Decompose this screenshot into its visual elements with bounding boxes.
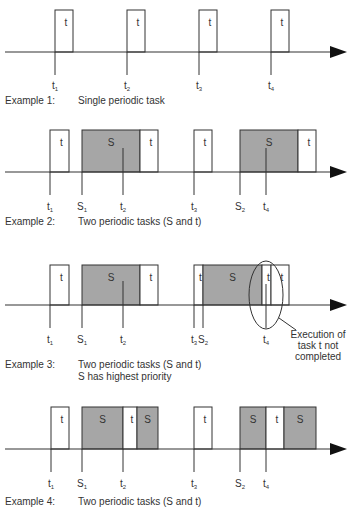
time-marker: t4 [268,52,275,92]
task-block-t: t [298,130,316,172]
marker-label: t3 [196,80,203,92]
task-block-t: t [55,10,73,52]
task-label: S [108,272,115,283]
time-marker: t1 [47,172,54,213]
task-label: t [150,137,153,148]
task-block-t: t [271,10,289,52]
task-label: t [65,17,68,28]
marker-label: t1 [47,201,54,213]
marker-label: t1 [52,80,59,92]
task-block-t: t [194,130,212,172]
task-block-s: S [82,265,140,305]
time-marker: S1 [77,305,88,346]
arrow-head-icon [330,443,347,455]
marker-label: S2 [198,334,209,346]
task-block-t: t [123,407,137,449]
task-block-t: t [199,10,217,52]
task-label: t [60,272,63,283]
annotation-text: task t not [298,340,339,351]
task-block-s: S [203,265,262,305]
task-label: S [99,414,106,425]
time-marker: t1 [48,449,55,490]
caption-label: Example 4: [5,496,55,507]
task-block-s: S [240,407,266,449]
time-marker: S1 [77,449,88,490]
time-marker: S2 [198,305,209,346]
marker-label: t4 [268,80,275,92]
task-block-t: t [194,265,203,305]
task-label: t [267,272,270,283]
time-marker: t2 [120,449,127,490]
marker-label: t2 [120,334,127,346]
task-label: S [297,414,304,425]
marker-label: t1 [47,334,54,346]
example-caption: Example 4:Two periodic tasks (S and t) [5,496,201,507]
task-block-t: t [50,265,69,305]
task-label: t [209,17,212,28]
marker-label: t2 [120,478,127,490]
example-1: ttttt1t2t3t4Example 1:Single periodic ta… [5,10,347,106]
task-label: t [281,17,284,28]
marker-label: S1 [77,201,88,213]
task-block-t: t [194,407,212,449]
marker-label: t4 [263,478,270,490]
task-label: t [61,414,64,425]
time-marker: t1 [47,305,54,346]
task-label: t [131,414,134,425]
task-label: S [144,414,151,425]
task-block-s: S [82,130,140,172]
example-caption: Example 2:Two periodic tasks (S and t) [5,216,201,227]
task-block-s: S [240,130,298,172]
time-marker: t2 [124,52,131,92]
task-label: t [60,137,63,148]
time-marker: t3 [196,52,203,92]
marker-label: S2 [235,201,246,213]
task-block-t: t [50,130,69,172]
annotation-text: Execution of [290,329,345,340]
caption-label: Example 1: [5,95,55,106]
arrow-head-icon [330,299,347,311]
time-marker: S2 [235,172,246,213]
time-marker: S1 [77,172,88,213]
task-label: t [199,272,202,283]
marker-label: t4 [263,201,270,213]
task-label: S [250,414,257,425]
example-4: tStStStSt1S1t2t3S2t4Example 4:Two period… [5,407,347,507]
task-block-t: t [140,265,158,305]
arrow-head-icon [330,46,347,58]
task-label: t [204,137,207,148]
task-block-t: t [51,407,69,449]
arrow-head-icon [330,166,347,178]
caption-text: Two periodic tasks (S and t) [78,496,201,507]
marker-label: t3 [191,334,198,346]
marker-label: t1 [48,478,55,490]
task-block-t: t [266,407,284,449]
example-caption: Example 1:Single periodic task [5,95,166,106]
task-label: t [204,414,207,425]
task-block-s: S [82,407,123,449]
time-marker: t3 [191,305,198,346]
task-label: S [108,137,115,148]
task-label: t [137,17,140,28]
task-label: S [229,272,236,283]
caption-text: Two periodic tasks (S and t) [78,359,201,370]
marker-label: S1 [77,478,88,490]
example-caption: Example 3:Two periodic tasks (S and t)S … [5,359,201,382]
time-marker: S2 [235,449,246,490]
task-label: t [308,137,311,148]
marker-label: S1 [77,334,88,346]
task-label: t [150,272,153,283]
time-marker: t3 [191,449,198,490]
marker-label: t3 [191,201,198,213]
task-block-t: t [140,130,158,172]
time-marker: t4 [263,449,270,490]
marker-label: t4 [263,334,270,346]
task-block-s: S [137,407,158,449]
task-block-t: t [271,265,289,305]
example-2: tSttStt1S1t2t3S2t4Example 2:Two periodic… [5,130,347,227]
caption-text: Two periodic tasks (S and t) [78,216,201,227]
example-3: tSttSttt1S1t2t3S2t4Example 3:Two periodi… [5,261,347,382]
caption-text: Single periodic task [78,95,166,106]
marker-label: t2 [120,201,127,213]
time-marker: t1 [52,52,59,92]
